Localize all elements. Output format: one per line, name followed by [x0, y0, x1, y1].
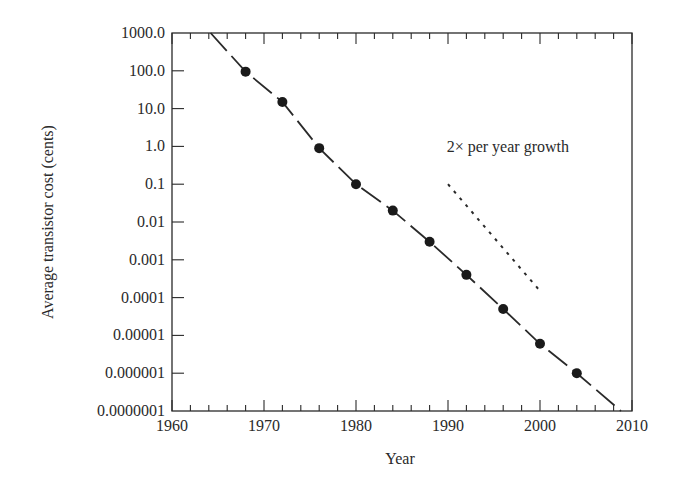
y-tick-label: 1000.0 [121, 24, 165, 41]
y-tick-label: 0.0001 [121, 289, 165, 306]
x-tick-label: 1990 [432, 417, 464, 434]
transistor-cost-chart: 196019701980199020002010 1000.0100.010.0… [0, 0, 689, 483]
x-axis-label: Year [385, 450, 415, 467]
y-tick-label: 0.000001 [105, 364, 165, 381]
y-tick-label: 0.001 [129, 251, 165, 268]
plot-border [172, 33, 632, 411]
data-point-marker [498, 304, 508, 314]
y-axis-ticks [172, 71, 184, 373]
data-series [211, 33, 621, 411]
y-tick-label: 0.0000001 [97, 402, 165, 419]
data-point-marker [314, 143, 324, 153]
x-tick-label: 2000 [524, 417, 556, 434]
data-point-marker [425, 237, 435, 247]
y-tick-label: 0.01 [137, 213, 165, 230]
plot-frame [172, 33, 632, 411]
x-tick-label: 1960 [156, 417, 188, 434]
cost-line [211, 33, 621, 411]
data-point-marker [461, 270, 471, 280]
x-tick-label: 1970 [248, 417, 280, 434]
data-point-marker [535, 339, 545, 349]
x-axis-tick-labels: 196019701980199020002010 [156, 417, 648, 434]
y-axis-label: Average transistor cost (cents) [39, 125, 57, 319]
data-point-marker [572, 368, 582, 378]
x-axis-ticks [172, 33, 632, 411]
x-tick-label: 1980 [340, 417, 372, 434]
y-tick-label: 0.00001 [113, 326, 165, 343]
annotations: 2× per year growth [447, 138, 569, 156]
data-point-marker [241, 67, 251, 77]
data-point-marker [388, 206, 398, 216]
y-tick-label: 0.1 [145, 175, 165, 192]
y-tick-label: 100.0 [129, 62, 165, 79]
data-point-marker [351, 179, 361, 189]
growth-annotation: 2× per year growth [447, 138, 569, 156]
y-axis-tick-labels: 1000.0100.010.01.00.10.010.0010.00010.00… [97, 24, 165, 419]
x-tick-label: 2010 [616, 417, 648, 434]
y-tick-label: 10.0 [137, 100, 165, 117]
data-point-marker [277, 97, 287, 107]
y-tick-label: 1.0 [145, 137, 165, 154]
